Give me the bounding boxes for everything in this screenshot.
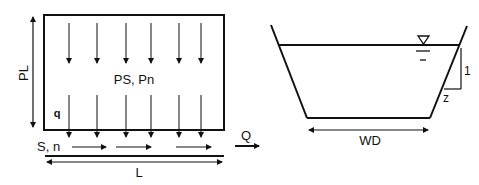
- bottom-width-label: WD: [359, 133, 381, 148]
- slope-horizontal-label: z: [443, 91, 449, 105]
- channel-left-bank: [271, 25, 307, 118]
- channel-slope-roughness-label: S, n: [37, 139, 60, 154]
- hydrology-diagram: PL PS, Pn q S, n L Q: [0, 0, 479, 185]
- lateral-inflow-label: q: [54, 107, 61, 119]
- channel-length-label: L: [135, 165, 142, 180]
- plane-diagram: PL PS, Pn q S, n L: [16, 15, 224, 180]
- channel-cross-section: 1 z WD: [271, 25, 471, 148]
- plane-slope-roughness-label: PS, Pn: [114, 72, 154, 87]
- water-surface-triangle-icon: [416, 36, 430, 60]
- plane-length-label: PL: [16, 65, 31, 81]
- discharge-label: Q: [241, 128, 251, 143]
- discharge-indicator: Q: [235, 128, 259, 146]
- slope-vertical-label: 1: [464, 64, 471, 78]
- rainfall-arrows-top: [69, 23, 201, 63]
